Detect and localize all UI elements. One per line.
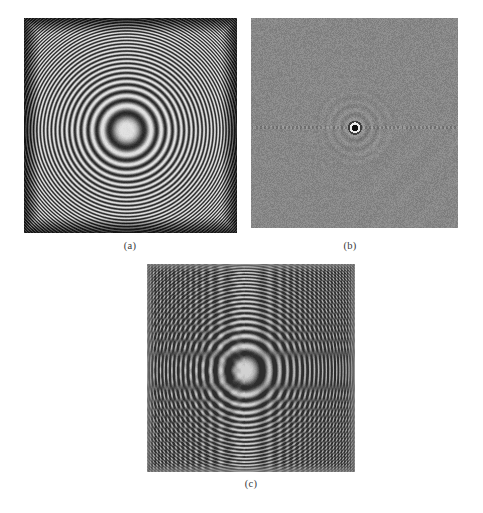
panel-a-zone-plate xyxy=(24,18,237,233)
aliased-resampled-image xyxy=(147,264,355,472)
panel-c-aliased-resample xyxy=(147,264,355,472)
zone-plate-chirp-image xyxy=(24,18,237,233)
fourier-spectrum-image xyxy=(251,18,458,228)
panel-c-caption: (c) xyxy=(225,478,277,489)
panel-b-caption: (b) xyxy=(324,240,376,251)
figure-page: (a) (b) (c) xyxy=(0,0,483,513)
panel-a-caption: (a) xyxy=(104,240,156,251)
panel-b-fourier-spectrum xyxy=(251,18,458,228)
